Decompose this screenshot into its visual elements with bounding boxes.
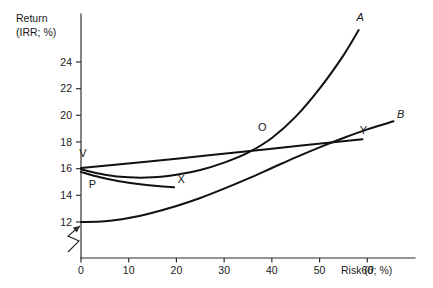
y-tick-label: 22	[60, 82, 72, 94]
annotation-label-p: P	[89, 178, 96, 190]
risk-return-plot: 121416182022240102030405060 VPOXYAB Retu…	[0, 0, 433, 288]
y-axis-break-symbol	[68, 226, 80, 252]
annotation-label-o: O	[258, 121, 267, 133]
x-tick-label: 50	[314, 264, 326, 276]
series-curve-b	[81, 121, 394, 222]
y-tick-label: 16	[60, 162, 72, 174]
data-series	[81, 30, 394, 222]
y-tick-label: 20	[60, 109, 72, 121]
axis-break-zigzag	[68, 226, 80, 252]
y-tick-label: 18	[60, 136, 72, 148]
annotation-label-b: B	[397, 108, 404, 120]
series-curve-a	[81, 30, 359, 178]
x-axis-title: Risk (θ; %)	[341, 264, 392, 276]
x-tick-label: 20	[171, 264, 183, 276]
chart-container: 121416182022240102030405060 VPOXYAB Retu…	[0, 0, 433, 288]
y-axis-title-line2: (IRR; %)	[16, 26, 56, 38]
y-tick-label: 14	[60, 189, 72, 201]
annotation-label-y: Y	[360, 124, 368, 136]
x-tick-label: 0	[78, 264, 84, 276]
x-tick-label: 30	[218, 264, 230, 276]
axis-titles: Return(IRR; %)Risk (θ; %)	[16, 12, 392, 276]
x-tick-label: 10	[123, 264, 135, 276]
y-tick-label: 12	[60, 216, 72, 228]
y-tick-label: 24	[60, 56, 72, 68]
x-tick-label: 40	[266, 264, 278, 276]
annotation-label-v: V	[79, 147, 87, 159]
tick-marks	[76, 62, 367, 263]
annotation-label-x: X	[178, 173, 186, 185]
y-axis-title-line1: Return	[16, 12, 48, 24]
annotation-label-a: A	[355, 11, 363, 23]
axes	[81, 14, 415, 258]
